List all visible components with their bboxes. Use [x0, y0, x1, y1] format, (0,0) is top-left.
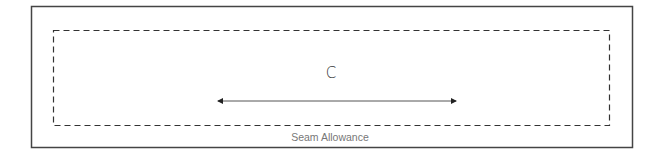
pattern-piece-diagram: C Seam Allowance	[0, 0, 667, 158]
piece-label: C	[326, 64, 336, 82]
seam-allowance-label: Seam Allowance	[291, 131, 369, 143]
